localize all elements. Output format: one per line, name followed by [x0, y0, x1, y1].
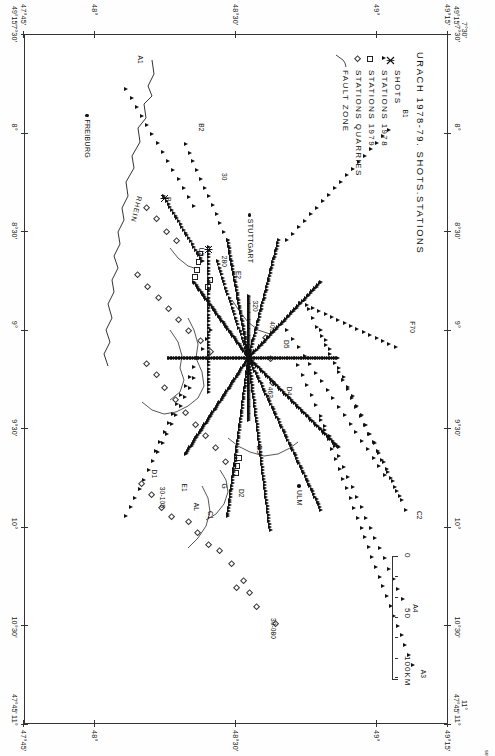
station-1978-marker: [383, 556, 387, 560]
station-1978-marker: [324, 312, 328, 316]
lon-tick-label: 8°30': [10, 222, 19, 239]
lon-tick-mark: [444, 133, 451, 134]
station-1978-marker: [394, 345, 398, 349]
station-1978-marker: [367, 432, 371, 436]
corner-label-top-left: 49°15': [453, 6, 460, 26]
station-1978-marker: [192, 280, 196, 284]
station-1978-marker: [343, 321, 347, 325]
station-1978-marker: [319, 280, 323, 284]
station-1978-marker: [398, 494, 402, 498]
lat-tick-mark: [376, 720, 377, 727]
station-1978-marker: [310, 393, 314, 397]
lon-tick-label: 8°30': [453, 222, 462, 239]
profile-label-d2: D2: [238, 489, 245, 498]
station-1978-marker: [296, 363, 300, 367]
lon-tick-mark: [444, 231, 451, 232]
station-1978-marker: [341, 378, 345, 382]
map-canvas-rotated: 49°15' 7°30' 49°15' 47°45' 11° 47°45' 7°…: [0, 0, 470, 756]
station-1978-marker: [326, 388, 330, 392]
lat-tick-label: 48°30': [231, 4, 240, 25]
station-1978-marker: [305, 383, 309, 387]
station-1978-marker: [215, 212, 219, 216]
station-1978-marker: [336, 318, 340, 322]
station-1978-marker: [355, 327, 359, 331]
lon-tick-label: 10°30': [453, 616, 462, 637]
station-1978-marker: [360, 526, 364, 530]
lon-tick-mark: [21, 428, 28, 429]
corner-label-top-left-2: 7°30': [461, 22, 468, 38]
station-1978-marker: [345, 486, 349, 490]
station-1978-marker: [192, 204, 196, 208]
station-1978-marker: [372, 456, 376, 460]
station-1978-marker: [320, 334, 324, 338]
lat-tick-label: 49°: [372, 4, 381, 15]
station-1978-marker: [354, 405, 358, 409]
lat-tick-mark: [235, 31, 236, 38]
station-1978-marker: [311, 306, 315, 310]
station-1978-marker: [211, 203, 215, 207]
station-1978-marker: [375, 336, 379, 340]
profile-label-463: 463: [267, 387, 274, 398]
station-1978-marker: [369, 526, 373, 530]
station-1978-marker: [368, 333, 372, 337]
station-1978-marker: [285, 328, 289, 332]
station-1978-marker: [370, 555, 374, 559]
station-1978-marker: [315, 325, 319, 329]
lon-tick-label: 7°30': [453, 25, 462, 42]
lon-tick-label: 9°: [10, 321, 19, 328]
lat-tick-label: 49°15': [443, 4, 452, 25]
lon-tick-label: 8°: [453, 124, 462, 131]
station-1978-marker: [337, 405, 341, 409]
station-1978-marker: [372, 440, 376, 444]
scale-tick-50: 50: [403, 608, 412, 619]
lat-tick-label: 48°30': [231, 730, 240, 751]
station-1978-marker: [133, 496, 137, 500]
lon-tick-mark: [21, 133, 28, 134]
shot-marker-urach: [244, 354, 253, 363]
station-1978-marker: [394, 485, 398, 489]
station-1978-marker: [285, 238, 289, 242]
station-1978-marker: [309, 212, 313, 216]
station-1978-marker: [354, 430, 358, 434]
station-1978-marker: [333, 186, 337, 190]
lat-tick-label: 49°15': [443, 730, 452, 751]
station-1978-marker: [207, 194, 211, 198]
station-1978-marker: [404, 508, 408, 512]
profile-label-30: 30: [221, 173, 228, 181]
city-label-stuttgart: STUTTGART: [247, 219, 254, 264]
lat-tick-mark: [94, 31, 95, 38]
station-1978-marker: [366, 447, 370, 451]
station-1978-marker: [161, 150, 165, 154]
station-1978-marker: [165, 432, 169, 436]
profile-label-f70: F70: [409, 321, 416, 333]
station-1978-marker: [319, 414, 323, 418]
legend-label-fault-zone: FAULT ZONE: [341, 70, 350, 133]
lon-tick-mark: [21, 625, 28, 626]
map-figure: 49°15' 7°30' 49°15' 47°45' 11° 47°45' 7°…: [0, 0, 495, 756]
lat-tick-label: 48°: [90, 4, 99, 15]
lon-tick-label: 10°30': [10, 616, 19, 637]
profile-label-e2: E2: [235, 271, 242, 279]
station-1978-marker: [374, 565, 378, 569]
station-1978-marker: [311, 316, 315, 320]
station-1978-marker: [369, 147, 373, 151]
profile-label-c2: C2: [416, 511, 423, 520]
legend-title: URACH 1978-79. SHOTS.STATIONS: [415, 52, 426, 254]
station-1978-marker: [401, 597, 405, 601]
station-1978-marker: [303, 219, 307, 223]
city-dot-ulm: [297, 484, 301, 488]
profile-label-d3: D3: [256, 445, 263, 454]
station-1978-marker: [341, 477, 345, 481]
profile-label-u2: U2: [198, 247, 205, 256]
lat-tick-mark: [23, 720, 24, 727]
corner-label-top-right: 47°45': [453, 694, 460, 714]
lon-tick-mark: [444, 428, 451, 429]
station-1978-marker: [403, 643, 407, 647]
lat-tick-mark: [447, 720, 448, 727]
station-1978-marker: [184, 142, 188, 146]
profile-label-a3: A3: [420, 670, 427, 678]
corner-label-bottom-right: 47°45': [11, 694, 18, 714]
station-1978-marker: [140, 114, 144, 118]
profile-label-b1: B1: [402, 109, 409, 117]
station-1978-marker: [387, 567, 391, 571]
